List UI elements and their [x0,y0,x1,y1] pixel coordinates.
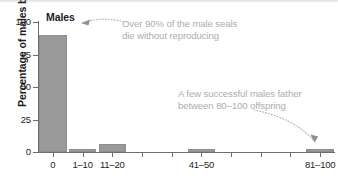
annotation-high-mortality-line2: die without reproducing [122,30,237,42]
y-tick-mark [33,152,38,153]
bar [99,144,126,152]
x-tick-label: 1–10 [72,159,92,170]
y-tick-mark [33,120,38,121]
leader-line-high-mortality [68,16,126,38]
x-tick-mark [290,153,291,157]
bar [188,149,215,152]
y-tick-mark [33,55,38,56]
leader-line-successful-males [252,108,332,150]
x-tick-label: 41–50 [189,159,214,170]
x-tick-label: 11–20 [100,159,125,170]
y-tick-label: 100 [15,16,31,27]
x-tick-mark [172,153,173,157]
y-tick-mark [33,22,38,23]
annotation-successful-males-line1: A few successful males father [178,88,301,100]
y-tick-mark [33,87,38,88]
x-tick-mark [231,153,232,157]
x-tick-mark [320,153,321,157]
y-tick-label: 0 [26,146,31,157]
annotation-high-mortality-line1: Over 90% of the male seals [122,18,237,30]
cropped-caption-sliver [0,0,338,3]
annotation-successful-males-line2: between 80–100 offspring [178,100,301,112]
x-tick-label: 81–100 [305,159,336,170]
x-tick-label: 0 [50,159,55,170]
bar [69,149,96,152]
x-tick-mark [142,153,143,157]
annotation-successful-males: A few successful males father between 80… [178,88,301,111]
y-tick-label: 75 [21,49,31,60]
x-tick-mark [53,153,54,157]
y-tick-label: 25 [21,114,31,125]
x-tick-mark [201,153,202,157]
annotation-high-mortality: Over 90% of the male seals die without r… [122,18,237,41]
bar-chart-figure: Percentage of males born Males 025507510… [0,0,338,176]
x-tick-mark [83,153,84,157]
x-tick-mark [112,153,113,157]
x-tick-mark [261,153,262,157]
bar [39,35,66,152]
y-tick-label: 50 [21,81,31,92]
